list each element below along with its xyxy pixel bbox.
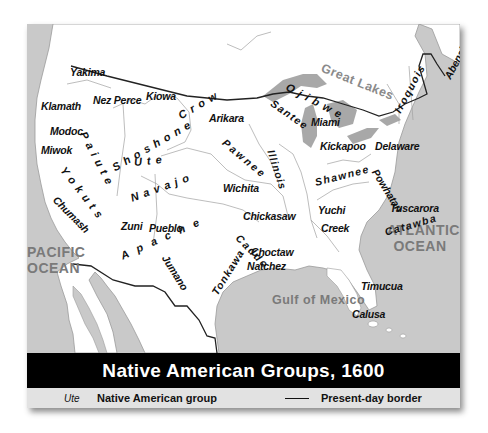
- pacific-line2: OCEAN: [27, 260, 75, 276]
- group-miami: Miami: [311, 116, 340, 128]
- pacific-line1: PACIFIC: [27, 244, 75, 260]
- map-area: Great Lakes PACIFIC OCEAN ATLANTIC OCEAN…: [27, 24, 460, 353]
- legend-group-label: Native American group: [97, 392, 217, 404]
- group-timucua: Timucua: [361, 280, 403, 292]
- group-zuni: Zuni: [121, 220, 142, 232]
- group-klamath: Klamath: [41, 100, 81, 112]
- group-creek: Creek: [321, 222, 349, 234]
- legend-border-line-icon: [285, 398, 309, 399]
- legend: Ute Native American group Present-day bo…: [27, 388, 460, 408]
- group-miwok: Miwok: [41, 144, 72, 156]
- map-title: Native American Groups, 1600: [27, 353, 460, 388]
- group-chickasaw: Chickasaw: [243, 210, 295, 222]
- group-wichita: Wichita: [223, 182, 259, 194]
- map-frame: Great Lakes PACIFIC OCEAN ATLANTIC OCEAN…: [27, 24, 460, 408]
- group-kickapoo: Kickapoo: [320, 140, 366, 152]
- group-kiowa: Kiowa: [146, 90, 176, 102]
- group-yuchi: Yuchi: [318, 204, 345, 216]
- group-choctaw: Choctaw: [251, 246, 293, 258]
- legend-border-label: Present-day border: [321, 392, 422, 404]
- gulf-of-mexico-label: Gulf of Mexico: [272, 292, 365, 308]
- legend-sample-label: Ute: [64, 393, 80, 404]
- group-yakima: Yakima: [70, 66, 105, 78]
- pacific-ocean-label: PACIFIC OCEAN: [27, 244, 75, 276]
- group-arikara: Arikara: [209, 112, 244, 124]
- atlantic-line2: OCEAN: [387, 238, 453, 254]
- group-nez-perce: Nez Perce: [93, 94, 141, 106]
- group-calusa: Calusa: [352, 308, 385, 320]
- group-delaware: Delaware: [375, 140, 420, 152]
- group-natchez: Natchez: [247, 260, 286, 272]
